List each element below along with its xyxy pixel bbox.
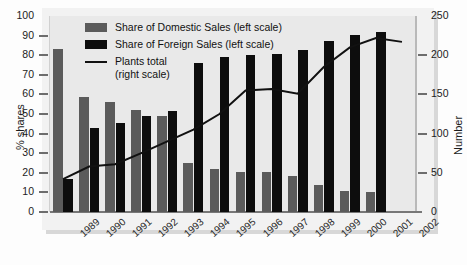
left-tick-mark	[39, 74, 48, 76]
legend-label-plants-total: Plants total	[115, 54, 167, 68]
left-axis-title: % shares	[14, 104, 26, 150]
left-tick-mark	[39, 35, 48, 37]
left-tick-label: 20	[8, 167, 34, 177]
left-tick-label: 0	[8, 206, 34, 216]
left-tick-mark	[39, 113, 48, 115]
legend-label-foreign: Share of Foreign Sales (left scale)	[115, 37, 274, 51]
legend-label-domestic: Share of Domestic Sales (left scale)	[115, 20, 282, 34]
right-tick-label: 250	[431, 10, 461, 20]
right-tick-mark	[418, 54, 427, 56]
left-tick-label: 60	[8, 88, 34, 98]
left-tick-mark	[39, 152, 48, 154]
right-tick-mark	[418, 133, 427, 135]
right-tick-label: 50	[431, 167, 461, 177]
left-tick-mark	[39, 172, 48, 174]
right-tick-label: 0	[431, 206, 461, 216]
left-tick-label: 10	[8, 186, 34, 196]
legend-line-plants-total	[85, 61, 107, 63]
left-tick-mark	[39, 211, 48, 213]
left-tick-label: 100	[8, 10, 34, 20]
left-tick-mark	[39, 133, 48, 135]
legend-swatch-domestic	[85, 23, 107, 32]
chart-legend: Share of Domestic Sales (left scale) Sha…	[85, 20, 335, 84]
left-tick-label: 70	[8, 69, 34, 79]
left-tick-label: 80	[8, 49, 34, 59]
right-tick-label: 150	[431, 88, 461, 98]
right-tick-mark	[418, 93, 427, 95]
left-tick-mark	[39, 54, 48, 56]
chart-figure: 0102030405060708090100 050100150200250 %…	[0, 0, 467, 265]
left-tick-mark	[39, 191, 48, 193]
legend-swatch-foreign	[85, 40, 107, 49]
legend-item-foreign: Share of Foreign Sales (left scale)	[85, 37, 335, 52]
left-tick-mark	[39, 93, 48, 95]
right-tick-mark	[418, 172, 427, 174]
legend-sublabel-plants-total: (right scale)	[115, 67, 170, 81]
legend-item-plants-total: Plants total (right scale)	[85, 54, 335, 82]
legend-item-domestic: Share of Domestic Sales (left scale)	[85, 20, 335, 35]
left-tick-label: 90	[8, 30, 34, 40]
right-axis-title: Number	[452, 116, 464, 155]
right-tick-label: 200	[431, 49, 461, 59]
right-axis-spine	[415, 16, 417, 212]
